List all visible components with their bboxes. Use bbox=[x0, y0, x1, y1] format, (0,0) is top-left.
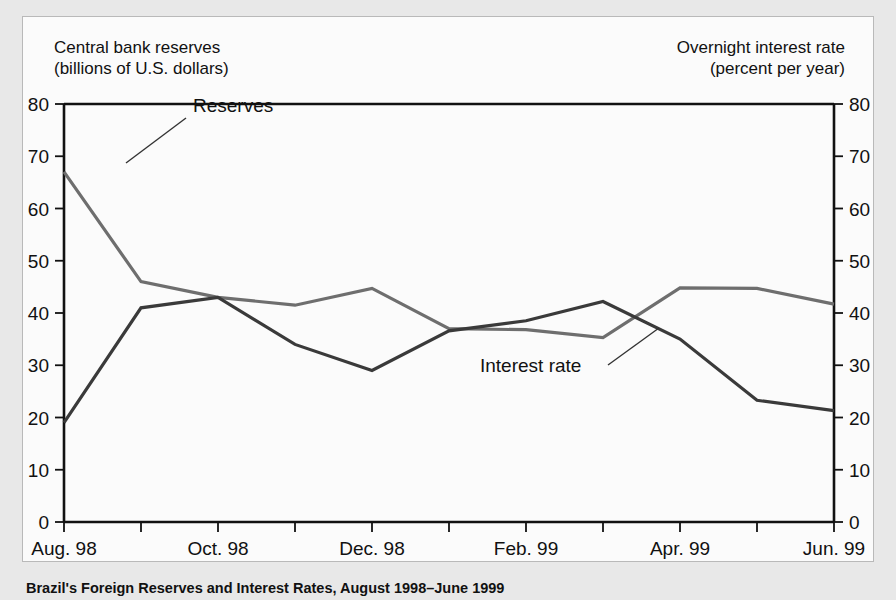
annotation-leader-line bbox=[608, 328, 659, 365]
y-right-tick-label: 40 bbox=[849, 303, 870, 324]
y-right-tick-label: 60 bbox=[849, 199, 870, 220]
series-annotation-reserves: Reserves bbox=[193, 95, 273, 116]
plot-axes bbox=[64, 104, 834, 522]
line-chart: 01020304050607080 01020304050607080 Aug.… bbox=[23, 17, 875, 563]
series-annotation-interest-rate: Interest rate bbox=[480, 355, 581, 376]
series-layer bbox=[64, 172, 834, 423]
x-axis-ticks: Aug. 98Oct. 98Dec. 98Feb. 99Apr. 99Jun. … bbox=[31, 522, 865, 559]
y-right-tick-label: 50 bbox=[849, 251, 870, 272]
x-tick-label: Apr. 99 bbox=[650, 538, 710, 559]
y-left-tick-label: 0 bbox=[38, 512, 49, 533]
y-left-tick-label: 60 bbox=[28, 199, 49, 220]
figure-panel: Central bank reserves (billions of U.S. … bbox=[22, 16, 874, 562]
x-tick-label: Jun. 99 bbox=[803, 538, 865, 559]
y-right-tick-label: 10 bbox=[849, 460, 870, 481]
y-axis-left-ticks: 01020304050607080 bbox=[28, 94, 64, 533]
y-left-tick-label: 70 bbox=[28, 146, 49, 167]
series-line-interest-rate bbox=[64, 297, 834, 422]
x-tick-label: Dec. 98 bbox=[339, 538, 404, 559]
y-left-tick-label: 10 bbox=[28, 460, 49, 481]
figure-caption: Brazil's Foreign Reserves and Interest R… bbox=[26, 580, 504, 596]
y-left-tick-label: 30 bbox=[28, 355, 49, 376]
y-left-tick-label: 20 bbox=[28, 408, 49, 429]
y-left-tick-label: 40 bbox=[28, 303, 49, 324]
y-right-tick-label: 70 bbox=[849, 146, 870, 167]
y-right-tick-label: 80 bbox=[849, 94, 870, 115]
x-tick-label: Feb. 99 bbox=[494, 538, 558, 559]
y-axis-right-ticks: 01020304050607080 bbox=[834, 94, 870, 533]
x-tick-label: Aug. 98 bbox=[31, 538, 97, 559]
y-left-tick-label: 80 bbox=[28, 94, 49, 115]
y-left-tick-label: 50 bbox=[28, 251, 49, 272]
y-right-tick-label: 0 bbox=[849, 512, 860, 533]
y-right-tick-label: 20 bbox=[849, 408, 870, 429]
series-line-reserves bbox=[64, 172, 834, 338]
y-right-tick-label: 30 bbox=[849, 355, 870, 376]
annotation-leader-line bbox=[126, 118, 186, 163]
x-tick-label: Oct. 98 bbox=[187, 538, 248, 559]
